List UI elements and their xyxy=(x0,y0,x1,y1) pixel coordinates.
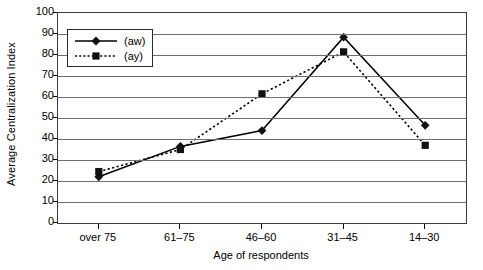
y-tick-mark xyxy=(53,201,57,202)
legend: (aw) (ay) xyxy=(67,29,153,67)
x-tick-mark xyxy=(424,224,425,229)
x-axis-title: Age of respondents xyxy=(57,249,465,261)
legend-label-aw: (aw) xyxy=(124,35,145,47)
y-tick-label: 70 xyxy=(24,69,54,80)
y-tick-label: 20 xyxy=(24,174,54,185)
y-tick-label: 80 xyxy=(24,48,54,59)
y-tick-mark xyxy=(53,222,57,223)
legend-sample-dotted-square-icon xyxy=(73,49,119,63)
x-tick-label: 14–30 xyxy=(384,231,464,243)
plot-area: (aw) (ay) xyxy=(57,12,467,224)
y-tick-mark xyxy=(53,138,57,139)
y-tick-mark xyxy=(53,180,57,181)
line-chart: Average Centralization Index 01020304050… xyxy=(0,0,483,270)
y-axis-title-text: Average Centralization Index xyxy=(5,42,17,186)
data-point-marker xyxy=(177,146,184,153)
x-tick-mark xyxy=(98,224,99,229)
gridline xyxy=(58,160,466,161)
y-tick-label: 90 xyxy=(24,27,54,38)
x-tick-mark xyxy=(261,224,262,229)
y-tick-mark xyxy=(53,159,57,160)
y-tick-label: 0 xyxy=(24,216,54,227)
y-tick-mark xyxy=(53,33,57,34)
gridline xyxy=(58,181,466,182)
gridline xyxy=(58,76,466,77)
data-point-marker xyxy=(95,168,102,175)
gridline xyxy=(58,97,466,98)
y-tick-mark xyxy=(53,54,57,55)
x-tick-label: 31–45 xyxy=(303,231,383,243)
y-tick-label: 100 xyxy=(24,6,54,17)
y-tick-label: 10 xyxy=(24,195,54,206)
legend-label-ay: (ay) xyxy=(124,50,143,62)
gridline xyxy=(58,139,466,140)
legend-sample-solid-diamond-icon xyxy=(73,34,119,48)
y-tick-label: 50 xyxy=(24,111,54,122)
y-axis-tick-labels: 0102030405060708090100 xyxy=(22,0,54,270)
legend-item-ay: (ay) xyxy=(73,48,145,63)
y-axis-title: Average Centralization Index xyxy=(0,0,22,228)
gridline xyxy=(58,118,466,119)
y-tick-mark xyxy=(53,96,57,97)
y-tick-mark xyxy=(53,117,57,118)
x-axis-tick-labels: over 7561–7546–6031–4514–30 xyxy=(57,224,467,246)
y-tick-label: 40 xyxy=(24,132,54,143)
legend-item-aw: (aw) xyxy=(73,33,145,48)
x-tick-label: 46–60 xyxy=(221,231,301,243)
gridline xyxy=(58,202,466,203)
x-tick-mark xyxy=(179,224,180,229)
x-tick-label: over 75 xyxy=(58,231,138,243)
x-tick-label: 61–75 xyxy=(139,231,219,243)
series-line-ay xyxy=(99,52,425,172)
y-tick-mark xyxy=(53,12,57,13)
y-tick-mark xyxy=(53,75,57,76)
x-tick-mark xyxy=(343,224,344,229)
data-point-marker xyxy=(422,142,429,149)
y-tick-label: 30 xyxy=(24,153,54,164)
y-tick-label: 60 xyxy=(24,90,54,101)
